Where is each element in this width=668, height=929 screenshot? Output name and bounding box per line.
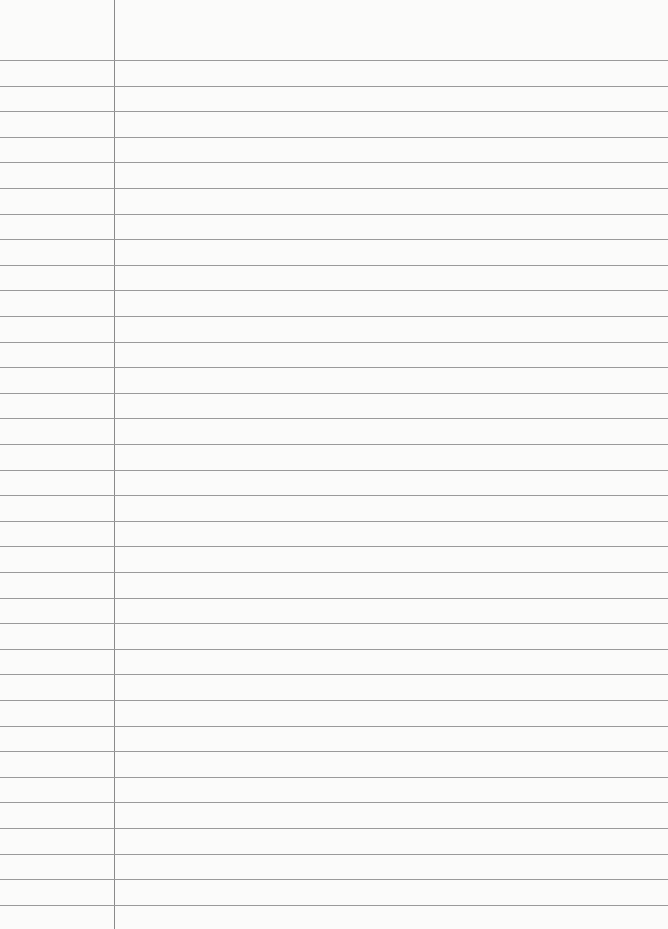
ruled-line xyxy=(0,214,668,215)
ruled-line xyxy=(0,188,668,189)
ruled-line xyxy=(0,674,668,675)
ruled-line xyxy=(0,418,668,419)
ruled-line xyxy=(0,572,668,573)
ruled-line xyxy=(0,879,668,880)
ruled-line xyxy=(0,751,668,752)
ruled-line xyxy=(0,239,668,240)
ruled-line xyxy=(0,162,668,163)
ruled-line xyxy=(0,777,668,778)
ruled-line xyxy=(0,905,668,906)
ruled-line xyxy=(0,854,668,855)
ruled-line xyxy=(0,521,668,522)
ruled-line xyxy=(0,265,668,266)
ruled-line xyxy=(0,598,668,599)
ruled-line xyxy=(0,60,668,61)
ruled-line xyxy=(0,342,668,343)
ruled-line xyxy=(0,444,668,445)
ruled-line xyxy=(0,470,668,471)
ruled-line xyxy=(0,316,668,317)
ruled-line xyxy=(0,828,668,829)
ruled-line xyxy=(0,137,668,138)
ruled-line xyxy=(0,367,668,368)
ruled-line xyxy=(0,726,668,727)
ruled-line xyxy=(0,111,668,112)
ruled-line xyxy=(0,393,668,394)
ruled-line xyxy=(0,623,668,624)
ruled-line xyxy=(0,290,668,291)
margin-line xyxy=(114,0,115,929)
ruled-line xyxy=(0,86,668,87)
ruled-line xyxy=(0,546,668,547)
ruled-line xyxy=(0,649,668,650)
ruled-line xyxy=(0,495,668,496)
ruled-line xyxy=(0,700,668,701)
ruled-line xyxy=(0,802,668,803)
